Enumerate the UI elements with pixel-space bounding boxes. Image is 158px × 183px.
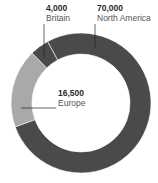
north-america-name: North America [97, 13, 151, 23]
britain-name: Britain [46, 13, 70, 23]
label-britain: 4,000 Britain [46, 3, 70, 23]
label-north-america: 70,000 North America [97, 3, 151, 23]
north-america-value: 70,000 [97, 3, 151, 13]
segment-europe [11, 53, 47, 127]
britain-value: 4,000 [46, 3, 70, 13]
europe-name: Europe [58, 98, 85, 108]
label-europe: 16,500 Europe [58, 88, 85, 108]
europe-value: 16,500 [58, 88, 85, 98]
